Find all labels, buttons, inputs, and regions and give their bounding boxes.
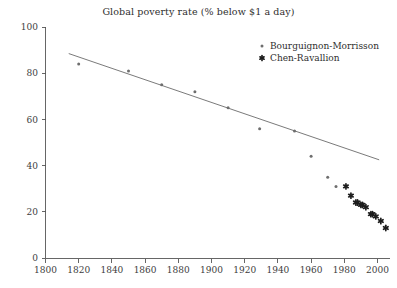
chart-figure: Global poverty rate (% below $1 a day) 0… <box>0 0 397 288</box>
x-tick-label: 1920 <box>233 265 256 275</box>
legend-label: Chen-Ravallion <box>270 53 340 63</box>
x-tick-label: 1880 <box>167 265 190 275</box>
y-tick-marks <box>42 27 46 258</box>
marker-asterisk <box>344 184 349 189</box>
marker-asterisk <box>379 218 384 223</box>
y-tick-label: 80 <box>27 68 39 78</box>
x-tick-label: 1860 <box>134 265 157 275</box>
data-point <box>335 185 338 188</box>
y-tick-label: 20 <box>27 207 39 217</box>
x-axis: 1800182018401860188019001920194019601980… <box>34 259 390 276</box>
marker-asterisk <box>364 205 369 210</box>
x-tick-label: 2000 <box>366 265 389 275</box>
y-tick-label: 40 <box>27 161 39 171</box>
data-point <box>160 83 163 86</box>
data-point <box>193 90 196 93</box>
data-point <box>293 129 296 132</box>
x-tick-label: 1820 <box>67 265 90 275</box>
x-tick-label: 1840 <box>100 265 123 275</box>
x-tick-label: 1980 <box>333 265 356 275</box>
series-bourguignon-morrisson <box>77 62 337 187</box>
marker-asterisk <box>260 56 264 61</box>
x-tick-label: 1960 <box>300 265 323 275</box>
y-axis: 020406080100 <box>21 22 46 263</box>
legend: Bourguignon-MorrissonChen-Ravallion <box>260 41 379 63</box>
trend-line-segment <box>69 54 379 160</box>
marker-asterisk <box>349 193 354 198</box>
plot-area: 020406080100 180018201840186018801900192… <box>0 0 397 288</box>
x-tick-label: 1940 <box>266 265 289 275</box>
marker-asterisk <box>384 225 389 230</box>
y-tick-label: 100 <box>21 22 38 32</box>
marker-asterisk <box>374 214 379 219</box>
data-point <box>326 176 329 179</box>
trend-line <box>69 54 379 160</box>
x-tick-labels: 1800182018401860188019001920194019601980… <box>34 265 389 275</box>
data-point <box>77 62 80 65</box>
x-tick-label: 1900 <box>200 265 223 275</box>
series-chen-ravallion <box>344 184 388 231</box>
data-point <box>258 127 261 130</box>
legend-label: Bourguignon-Morrisson <box>270 41 379 51</box>
y-tick-label: 60 <box>27 115 39 125</box>
data-point <box>127 69 130 72</box>
y-tick-labels: 020406080100 <box>21 22 38 263</box>
x-tick-marks <box>46 259 378 264</box>
x-tick-label: 1800 <box>34 265 57 275</box>
y-tick-label: 0 <box>32 253 38 263</box>
data-point <box>227 106 230 109</box>
legend-marker <box>261 45 264 48</box>
data-point <box>310 155 313 158</box>
